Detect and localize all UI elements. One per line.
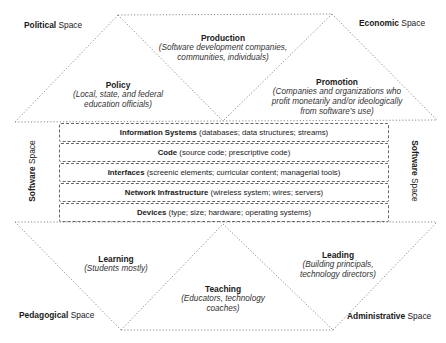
node-policy: Policy (Local, state, and federal educat…: [58, 80, 178, 110]
node-production: Production (Software development compani…: [148, 33, 298, 63]
top-base-line: [15, 120, 437, 122]
political-space-label: Political Space: [24, 20, 82, 30]
layer-interfaces: Interfaces (screenic elements; curricula…: [59, 163, 389, 182]
economic-space-label: Economic Space: [359, 18, 425, 28]
administrative-space-label: Administrative Space: [347, 311, 431, 321]
layer-devices: Devices (type; size; hardware; operating…: [59, 203, 389, 222]
node-leading: Leading (Building principals, technology…: [288, 250, 388, 280]
software-space-right-label: Software Space: [410, 136, 420, 206]
node-teaching: Teaching (Educators, technology coaches): [173, 284, 273, 314]
top-edge: [118, 14, 332, 15]
layer-network-infrastructure: Network Infrastructure (wireless system;…: [59, 183, 389, 202]
pedagogical-space-label: Pedagogical Space: [19, 310, 94, 320]
software-space-left-label: Software Space: [27, 136, 37, 206]
node-learning: Learning (Students mostly): [66, 254, 166, 274]
node-promotion: Promotion (Companies and organizations w…: [262, 77, 412, 117]
layer-code: Code (source code; prescriptive code): [59, 143, 389, 162]
layer-information-systems: Information Systems (databases; data str…: [59, 123, 389, 142]
